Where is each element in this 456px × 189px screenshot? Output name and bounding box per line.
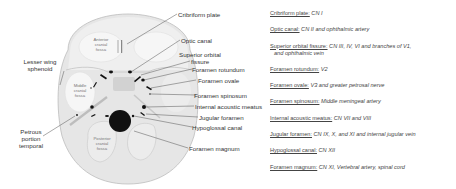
legend-row-cribriform: Cribriform plate: CN I: [270, 10, 456, 17]
anterior-fossa-label: Anterior cranial fossa: [87, 37, 115, 52]
label-foramen-rotundum: Foramen rotundum: [192, 66, 245, 73]
legend-row-hypoglossal: Hypoglossal canal: CN XII: [270, 147, 456, 154]
legend-row-magnum: Foramen magnum: CN XI, Vertebral artery,…: [270, 164, 456, 171]
posterior-fossa-label: Posterior cranial fossa: [88, 136, 116, 151]
label-superior-orbital-fissure-1: Superior orbital: [179, 51, 221, 58]
legend-row-acoustic: Internal acoustic meatus: CN VII and VII…: [270, 115, 456, 122]
label-foramen-ovale: Foramen ovale: [198, 77, 239, 84]
legend-row-superior-orbital: Superior orbital fissure: CN III, IV, VI…: [270, 43, 456, 57]
foramina-legend: Cribriform plate: CN I Optic canal: CN I…: [270, 10, 456, 180]
label-foramen-spinosum: Foramen spinosum: [194, 92, 247, 99]
legend-row-optic: Optic canal: CN II and ophthalmic artery: [270, 26, 456, 33]
label-superior-orbital-fissure-2: fissure: [191, 58, 209, 65]
label-internal-acoustic-meatus: Internal acoustic meatus: [195, 103, 262, 110]
legend-row-ovale: Foramen ovale: V3 and greater petrosal n…: [270, 82, 456, 89]
label-lesser-wing-sphenoid: Lesser wing sphenoid: [20, 58, 60, 72]
label-hypoglossal-canal: Hypoglossal canal: [192, 124, 242, 131]
label-cribriform-plate: Cribriform plate: [178, 11, 220, 18]
label-optic-canal: Optic canal: [181, 37, 212, 44]
legend-row-spinosum: Foramen spinosum: Middle meningeal arter…: [270, 98, 456, 105]
legend-row-jugular: Jugular foramen: CN IX, X, and XI and in…: [270, 131, 456, 138]
middle-fossa-label: Middle cranial fossa: [67, 83, 93, 98]
legend-row-rotundum: Foramen rotundum: V2: [270, 66, 456, 73]
label-foramen-magnum: Foramen magnum: [189, 145, 240, 152]
label-jugular-foramen: Jugular foramen: [199, 114, 244, 121]
skull-base-diagram: Anterior cranial fossa Middle cranial fo…: [0, 0, 260, 189]
label-petrous-portion-temporal: Petrous portion temporal: [16, 128, 46, 149]
